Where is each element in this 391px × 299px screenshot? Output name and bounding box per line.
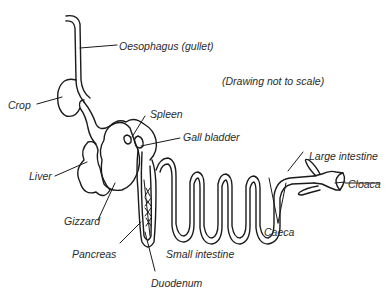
label-liver: Liver <box>29 171 52 182</box>
spleen-shape <box>124 135 131 144</box>
label-crop: Crop <box>8 100 31 111</box>
gizzard-shape <box>100 122 139 190</box>
label-cloaca: Cloaca <box>348 179 381 190</box>
label-caeca: Caeca <box>264 227 294 238</box>
label-gizzard: Gizzard <box>64 216 100 227</box>
label-duodenum: Duodenum <box>151 278 202 289</box>
label-small-intestine: Small intestine <box>166 249 234 260</box>
digestive-system-diagram: Oesophagus (gullet) (Drawing not to scal… <box>0 0 391 299</box>
label-oesophagus: Oesophagus (gullet) <box>119 41 214 52</box>
label-pancreas: Pancreas <box>72 249 116 260</box>
large-intestine-shape <box>314 171 344 190</box>
upper-organ-shape <box>110 119 156 160</box>
drawing-scale-note: (Drawing not to scale) <box>222 76 324 87</box>
liver-shape <box>78 142 110 196</box>
label-large-intestine: Large intestine <box>309 151 378 162</box>
label-gall-bladder: Gall bladder <box>183 132 240 143</box>
oesophagus-shape <box>66 16 90 102</box>
crop-shape <box>58 79 84 116</box>
pancreas-shape <box>144 180 151 236</box>
label-spleen: Spleen <box>150 109 183 120</box>
proventriculus-shape <box>80 102 110 144</box>
